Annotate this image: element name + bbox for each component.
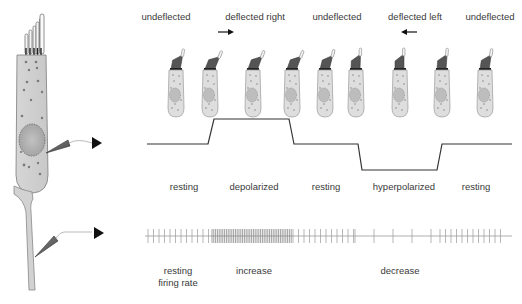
small-hair-cells-row [168,47,493,117]
deflection-label: undeflected [116,11,216,23]
small-hair-cell [168,47,185,117]
hair-cell-electrode [46,137,102,153]
arrow-to-spikes-icon [94,227,104,239]
small-hair-cell [317,47,335,117]
small-hair-cell [245,48,265,117]
afferent-spike-train [145,229,512,243]
small-hair-cell [434,48,450,117]
arrow-left-icon [401,29,417,35]
firing-rate-label: decrease [350,265,450,277]
deflection-arrows [218,29,417,35]
small-hair-cell [284,48,304,117]
arrow-to-potential-icon [92,137,102,149]
potential-state-label: resting [426,181,522,193]
small-hair-cell [202,48,223,117]
deflection-label: undeflected [440,11,522,23]
small-hair-cell [348,48,364,117]
small-hair-cell [477,48,493,117]
afferent-fiber-electrode [35,227,104,257]
arrow-right-icon [218,29,234,35]
hair-cell-diagram [0,0,522,304]
small-hair-cell [392,48,408,117]
firing-rate-label: increase [204,265,304,277]
receptor-potential-trace [147,119,512,170]
